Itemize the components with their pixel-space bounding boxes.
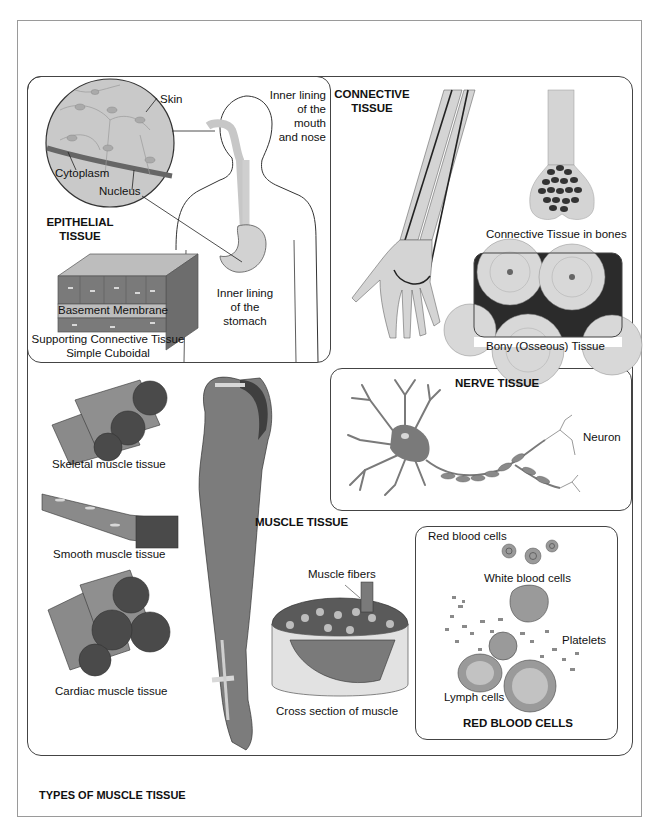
label-platelets: Platelets	[562, 634, 606, 647]
blood-cells-illustration	[0, 0, 659, 837]
label-lymph-cells: Lymph cells	[444, 691, 504, 704]
label-red-blood-cells: Red blood cells	[428, 530, 507, 543]
blood-title: RED BLOOD CELLS	[463, 717, 573, 730]
figure-caption: TYPES OF MUSCLE TISSUE	[39, 789, 186, 802]
label-white-blood-cells: White blood cells	[484, 572, 571, 585]
